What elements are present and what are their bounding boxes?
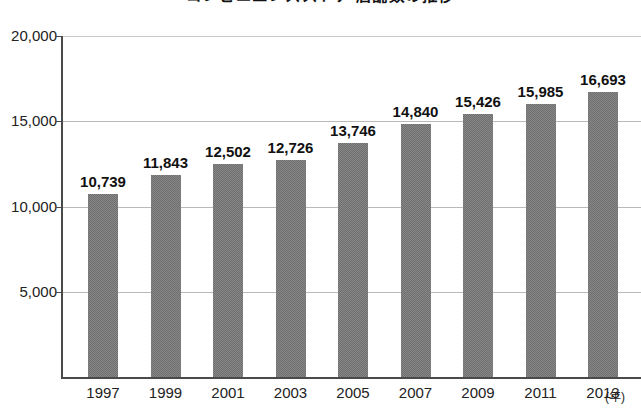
bar-2003: [276, 160, 306, 377]
bar-2001: [213, 164, 243, 377]
y-tick-label-15000: 15,000: [1, 112, 57, 129]
bar-2007: [401, 124, 431, 377]
bar-1997: [88, 194, 118, 377]
chart-figure: コンビニエンスストア 店舗数の推移 20,000 15,000 10,000 5…: [0, 0, 641, 408]
bar-value-2005: 13,746: [330, 122, 376, 139]
x-tick-label-1997: 1997: [86, 384, 119, 401]
bar-value-2003: 12,726: [268, 139, 314, 156]
bar-value-2007: 14,840: [393, 103, 439, 120]
bar-value-1997: 10,739: [80, 173, 126, 190]
bar-2009: [463, 114, 493, 377]
y-tick-label-10000: 10,000: [1, 198, 57, 215]
y-tick-label-5000: 5,000: [1, 283, 57, 300]
x-tick-label-2011: 2011: [524, 384, 556, 401]
y-tick-label-20000: 20,000: [1, 27, 57, 44]
bar-1999: [151, 175, 181, 377]
bar-value-1999: 11,843: [143, 154, 188, 171]
x-tick-label-2001: 2001: [211, 384, 244, 401]
bar-2005: [338, 143, 368, 377]
bar-value-2009: 15,426: [455, 93, 501, 110]
x-axis-line: [61, 377, 641, 379]
x-tick-label-2003: 2003: [274, 384, 307, 401]
chart-title: コンビニエンスストア 店舗数の推移: [0, 0, 641, 5]
y-axis-tick-labels: 20,000 15,000 10,000 5,000: [0, 0, 57, 408]
gridline-20000: [63, 36, 641, 37]
x-tick-label-2005: 2005: [336, 384, 369, 401]
x-tick-label-2009: 2009: [461, 384, 494, 401]
x-axis-unit-label: (年): [605, 387, 625, 404]
x-tick-label-2007: 2007: [399, 384, 432, 401]
bar-2013: [588, 92, 618, 377]
x-tick-label-1999: 1999: [149, 384, 182, 401]
bar-value-2013: 16,693: [580, 71, 626, 88]
bar-value-2001: 12,502: [205, 143, 251, 160]
bar-value-2011: 15,985: [518, 83, 564, 100]
bar-2011: [526, 104, 556, 377]
